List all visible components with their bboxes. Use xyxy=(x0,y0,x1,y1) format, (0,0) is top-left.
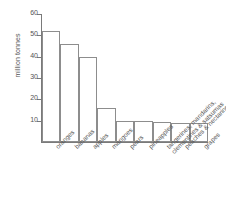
plot-area: 102030405060 xyxy=(41,14,208,143)
x-axis-category-labels: orangesbananasapplesmangoespearspineappl… xyxy=(41,145,208,214)
y-tick-label: 40 xyxy=(30,52,38,59)
bar-bananas xyxy=(60,44,78,142)
y-tick-label: 50 xyxy=(30,30,38,37)
y-tick-label: 20 xyxy=(30,94,38,101)
y-axis-title: million tonnes xyxy=(14,13,21,99)
bar-oranges xyxy=(42,31,60,142)
y-tick-label: 60 xyxy=(30,9,38,16)
y-tick-label: 30 xyxy=(30,73,38,80)
bar-series xyxy=(42,14,208,143)
bar-chart: million tonnes 102030405060 orangesbanan… xyxy=(0,0,226,214)
y-tick-label: 10 xyxy=(30,116,38,123)
